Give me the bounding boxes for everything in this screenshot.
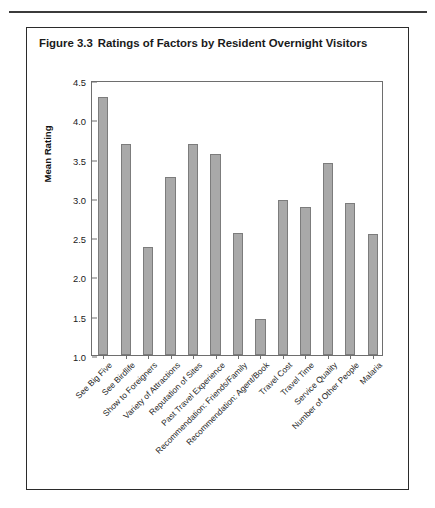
bar: [121, 144, 131, 355]
x-tick-mark: [126, 355, 127, 359]
y-tick-label: 4.5: [73, 77, 86, 88]
x-axis-labels: See Big FiveSee BirdlifeShow to Foreigne…: [91, 360, 383, 472]
x-tick-mark: [350, 355, 351, 359]
figure-title-text: Ratings of Factors by Resident Overnight…: [98, 37, 367, 49]
bar: [188, 144, 198, 355]
top-divider-rule: [9, 11, 427, 13]
bar: [210, 154, 220, 355]
y-tick-mark: [92, 278, 97, 279]
x-tick-mark: [216, 355, 217, 359]
bar: [345, 203, 355, 355]
y-tick-mark: [92, 239, 97, 240]
y-tick-label: 1.0: [73, 352, 86, 363]
bar: [323, 163, 333, 355]
figure-number: Figure 3.3: [39, 37, 93, 49]
chart-axes-frame: 1.01.52.02.53.03.54.04.5: [91, 81, 383, 356]
y-tick-mark: [92, 121, 97, 122]
x-tick-label: Malaria: [357, 360, 383, 386]
bar-series: [92, 82, 382, 355]
figure-page: Figure 3.3Ratings of Factors by Resident…: [0, 0, 435, 508]
bar: [300, 207, 310, 355]
x-tick-mark: [305, 355, 306, 359]
x-tick-mark: [260, 355, 261, 359]
x-tick-mark: [373, 355, 374, 359]
y-tick-label: 3.0: [73, 194, 86, 205]
y-tick-mark: [92, 160, 97, 161]
y-tick-mark: [92, 317, 97, 318]
figure-title: Figure 3.3Ratings of Factors by Resident…: [39, 37, 367, 49]
figure-container: Figure 3.3Ratings of Factors by Resident…: [26, 27, 409, 490]
x-tick-label-text: Malaria: [357, 360, 383, 386]
y-tick-mark: [92, 199, 97, 200]
bar: [278, 200, 288, 355]
bar: [165, 177, 175, 355]
y-tick-label: 1.5: [73, 312, 86, 323]
y-tick-label: 2.5: [73, 234, 86, 245]
bar: [98, 97, 108, 355]
bar: [255, 319, 265, 355]
chart-plot-area: Mean Rating 1.01.52.02.53.03.54.04.5 See…: [41, 73, 393, 473]
y-axis-label: Mean Rating: [42, 167, 53, 183]
x-tick-mark: [103, 355, 104, 359]
y-tick-label: 3.5: [73, 155, 86, 166]
x-tick-mark: [148, 355, 149, 359]
bar: [368, 234, 378, 355]
x-tick-mark: [238, 355, 239, 359]
bar: [233, 233, 243, 355]
y-tick-label: 2.0: [73, 273, 86, 284]
x-tick-mark: [171, 355, 172, 359]
y-tick-mark: [92, 82, 97, 83]
y-tick-label: 4.0: [73, 116, 86, 127]
bar: [143, 247, 153, 355]
x-tick-mark: [193, 355, 194, 359]
x-tick-mark: [328, 355, 329, 359]
y-tick-mark: [92, 357, 97, 358]
x-tick-mark: [283, 355, 284, 359]
